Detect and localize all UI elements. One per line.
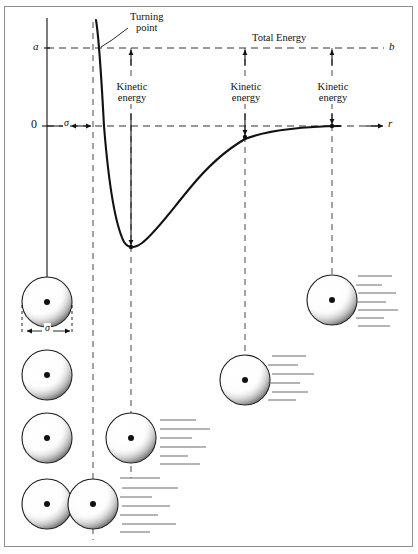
molecule-sphere-7 [220,355,270,405]
kinetic-energy-label-2: Kinetic energy [222,81,270,104]
kinetic-energy-label-2-line2: energy [223,92,269,103]
molecule-sphere-5 [68,479,118,529]
molecule-sphere-3 [22,413,72,463]
curve-dot-far [330,124,334,128]
turning-point-line-1: Turning [130,11,163,22]
turning-point-label: Turning point [130,11,163,34]
kinetic-energy-label-1-line1: Kinetic [109,81,155,92]
speed-lines-8 [356,276,398,326]
potential-energy-curve [96,20,340,247]
turning-point-line-2: point [130,22,163,33]
curve-dot-mid [243,135,247,139]
kinetic-energy-label-1: Kinetic energy [108,81,156,104]
molecule-group [22,275,398,532]
kinetic-energy-label-3-line1: Kinetic [310,81,356,92]
kinetic-energy-label-3: Kinetic energy [309,81,357,104]
total-energy-label: Total Energy [249,32,309,43]
speed-lines-6 [160,420,210,464]
molecule-sphere-1 [22,277,72,327]
kinetic-energy-label-3-line2: energy [310,92,356,103]
molecule-sphere-2 [22,350,72,400]
molecule-sphere-6 [106,413,156,463]
kinetic-energy-label-1-line2: energy [109,92,155,103]
y-axis-label-a: a [33,41,39,53]
curve-dot-min [129,245,133,249]
potential-energy-figure: a 0 r b σ σ Total Energy Turning point K… [0,0,418,554]
sigma-label-axis: σ [63,118,70,129]
molecule-sphere-8 [307,275,357,325]
sigma-label-sphere: σ [44,323,51,334]
total-energy-right-label-b: b [389,41,395,53]
speed-lines-5 [120,478,178,532]
origin-label: 0 [31,118,37,131]
molecule-sphere-4 [22,479,72,529]
kinetic-energy-label-2-line1: Kinetic [223,81,269,92]
speed-lines-7 [268,356,314,400]
turning-point-leader [101,28,128,47]
x-axis-label-r: r [388,118,392,130]
